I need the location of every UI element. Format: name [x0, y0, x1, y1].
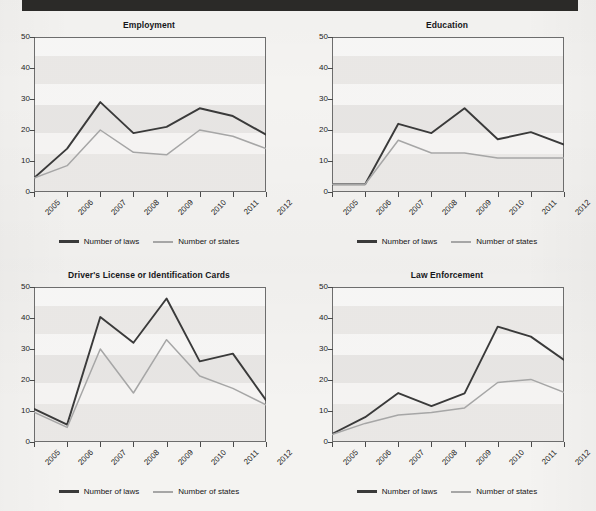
legend-label-laws: Number of laws: [84, 487, 140, 496]
legend-swatch-laws: [59, 490, 79, 493]
chart-panel-law-enforcement: Law Enforcement 01020304050 200520062007…: [298, 261, 596, 511]
x-axis-tick-label: 2011: [242, 198, 261, 217]
x-axis-tick-label: 2006: [374, 448, 393, 467]
series-line-laws: [34, 298, 266, 424]
series-line-states: [34, 340, 266, 428]
y-axis-labels: 01020304050: [304, 37, 328, 192]
x-axis-labels: 20052006200720082009201020112012: [332, 446, 564, 480]
x-axis-tick-label: 2007: [407, 448, 426, 467]
chart-panel-drivers-license: Driver's License or Identification Cards…: [0, 261, 298, 511]
y-axis-tick-label: 20: [319, 126, 328, 134]
x-axis-tick-label: 2007: [407, 198, 426, 217]
x-axis-tick-label: 2008: [143, 448, 162, 467]
plot-lines: [34, 287, 266, 442]
chart-title: Employment: [0, 20, 298, 30]
x-axis-tick-label: 2011: [242, 448, 261, 467]
legend-label-states: Number of states: [178, 237, 239, 246]
x-axis-tick-label: 2008: [441, 198, 460, 217]
chart-legend: Number of laws Number of states: [0, 487, 298, 496]
x-axis-tick-label: 2005: [341, 198, 360, 217]
chart-legend: Number of laws Number of states: [298, 487, 596, 496]
x-axis-tick-label: 2009: [474, 448, 493, 467]
x-axis-tick-label: 2006: [76, 448, 95, 467]
y-axis-tick-label: 10: [21, 407, 30, 415]
legend-label-laws: Number of laws: [84, 237, 140, 246]
x-axis-tick-label: 2011: [540, 198, 559, 217]
legend-item-states: Number of states: [153, 487, 239, 496]
x-axis-tick-label: 2005: [43, 198, 62, 217]
legend-label-states: Number of states: [476, 237, 537, 246]
chart-panel-employment: Employment 01020304050 20052006200720082…: [0, 11, 298, 261]
series-line-states: [332, 140, 564, 184]
x-axis-tick-label: 2008: [441, 448, 460, 467]
chart-grid: Employment 01020304050 20052006200720082…: [0, 11, 596, 511]
x-axis-tick-label: 2007: [109, 448, 128, 467]
legend-swatch-laws: [357, 490, 377, 493]
x-axis-tick-label: 2006: [76, 198, 95, 217]
x-axis-labels: 20052006200720082009201020112012: [34, 446, 266, 480]
y-axis-tick-label: 40: [21, 64, 30, 72]
legend-item-laws: Number of laws: [357, 487, 438, 496]
chart-legend: Number of laws Number of states: [0, 237, 298, 246]
chart-legend: Number of laws Number of states: [298, 237, 596, 246]
x-axis-labels: 20052006200720082009201020112012: [332, 196, 564, 230]
y-axis-tick-label: 50: [21, 283, 30, 291]
legend-swatch-states: [153, 241, 173, 243]
legend-label-laws: Number of laws: [382, 237, 438, 246]
y-axis-labels: 01020304050: [304, 287, 328, 442]
chart-panel-education: Education 01020304050 200520062007200820…: [298, 11, 596, 261]
y-axis-tick-label: 20: [319, 376, 328, 384]
series-line-states: [332, 379, 564, 434]
legend-swatch-states: [153, 491, 173, 493]
legend-item-states: Number of states: [451, 487, 537, 496]
legend-label-laws: Number of laws: [382, 487, 438, 496]
y-axis-tick-label: 30: [21, 345, 30, 353]
x-axis-tick-label: 2012: [573, 448, 592, 467]
x-axis-tick-label: 2005: [43, 448, 62, 467]
plot-lines: [332, 287, 564, 442]
y-axis-tick-label: 50: [319, 33, 328, 41]
y-axis-tick-label: 50: [21, 33, 30, 41]
y-axis-tick-label: 40: [319, 64, 328, 72]
x-axis-tick-label: 2009: [474, 198, 493, 217]
y-axis-tick-label: 10: [319, 407, 328, 415]
y-axis-labels: 01020304050: [6, 37, 30, 192]
y-axis-tick-label: 30: [319, 95, 328, 103]
y-axis-tick-label: 40: [319, 314, 328, 322]
legend-item-states: Number of states: [451, 237, 537, 246]
y-axis-tick-label: 10: [21, 157, 30, 165]
chart-title: Law Enforcement: [298, 270, 596, 280]
chart-title: Driver's License or Identification Cards: [0, 270, 298, 280]
legend-label-states: Number of states: [476, 487, 537, 496]
x-axis-tick-label: 2012: [275, 198, 294, 217]
x-axis-tick: [564, 442, 565, 447]
legend-swatch-states: [451, 491, 471, 493]
y-axis-tick-label: 50: [319, 283, 328, 291]
x-axis-tick: [564, 192, 565, 197]
x-axis-tick-label: 2005: [341, 448, 360, 467]
y-axis-tick-label: 40: [21, 314, 30, 322]
series-line-laws: [332, 327, 564, 434]
series-line-states: [34, 130, 266, 178]
x-axis-tick-label: 2010: [507, 198, 526, 217]
x-axis-tick-label: 2012: [573, 198, 592, 217]
legend-item-laws: Number of laws: [59, 487, 140, 496]
legend-swatch-states: [451, 241, 471, 243]
x-axis-tick-label: 2007: [109, 198, 128, 217]
x-axis-tick-label: 2010: [507, 448, 526, 467]
x-axis-tick-label: 2011: [540, 448, 559, 467]
plot-area: 01020304050 2005200620072008200920102011…: [34, 287, 266, 442]
x-axis-tick-label: 2008: [143, 198, 162, 217]
legend-item-laws: Number of laws: [59, 237, 140, 246]
series-line-laws: [332, 108, 564, 184]
plot-lines: [332, 37, 564, 192]
chart-title: Education: [298, 20, 596, 30]
plot-area: 01020304050 2005200620072008200920102011…: [332, 37, 564, 192]
y-axis-tick-label: 20: [21, 126, 30, 134]
legend-swatch-laws: [59, 240, 79, 243]
x-axis-tick: [266, 192, 267, 197]
plot-area: 01020304050 2005200620072008200920102011…: [34, 37, 266, 192]
x-axis-tick-label: 2010: [209, 448, 228, 467]
y-axis-tick-label: 20: [21, 376, 30, 384]
x-axis-tick-label: 2012: [275, 448, 294, 467]
